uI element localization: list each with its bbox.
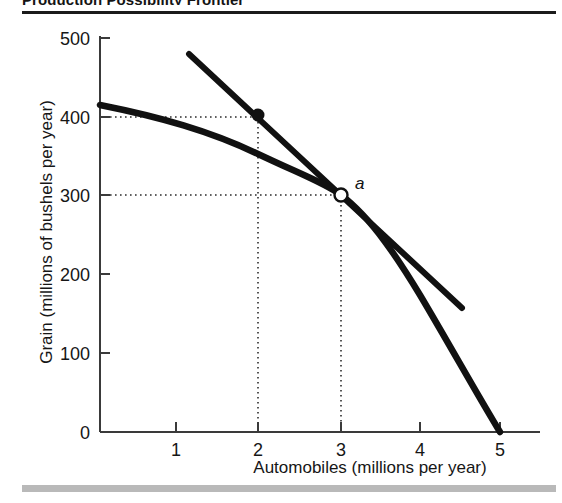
- x-tick-label-3: 3: [328, 441, 354, 459]
- y-axis-title: Grain (millions of bushels per year): [37, 67, 57, 397]
- x-tick-label-1: 1: [163, 441, 189, 459]
- x-tick-label-4: 4: [407, 441, 433, 459]
- y-tick-label-0: 0: [38, 424, 90, 442]
- x-axis-title: Automobiles (millions per year): [180, 458, 560, 478]
- figure-container: Production Possibility Frontier 500 400: [0, 0, 562, 503]
- filled-marker-point: [252, 109, 265, 122]
- open-marker-point-a: [335, 189, 348, 202]
- x-tick-label-5: 5: [487, 441, 513, 459]
- x-tick-label-2: 2: [245, 441, 271, 459]
- point-a-label: a: [355, 174, 364, 194]
- bottom-gray-bar: [22, 485, 556, 492]
- y-tick-label-500: 500: [38, 30, 90, 48]
- tangent-line: [189, 54, 462, 308]
